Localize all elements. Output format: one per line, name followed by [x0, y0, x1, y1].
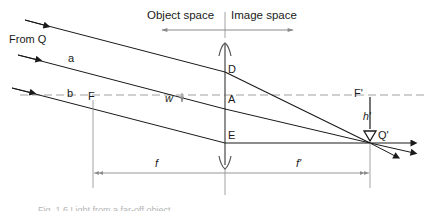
front-focal-length-label: f	[155, 158, 158, 169]
from-q-label: From Q	[9, 34, 46, 45]
image-height-label: h'	[363, 111, 371, 122]
front-focal-point-label: F	[88, 91, 95, 102]
figure-caption: Fig. 1.6 Light from a far-off object	[38, 206, 170, 211]
point-e-label: E	[228, 130, 235, 141]
ray-a-label: a	[68, 53, 74, 64]
angle-w-label: w	[165, 93, 173, 104]
rear-focal-point-label: F'	[354, 88, 363, 99]
point-d-label: D	[228, 64, 236, 75]
optics-diagram	[0, 0, 425, 211]
point-a-label: A	[228, 94, 235, 105]
ray-b-label: b	[67, 88, 73, 99]
image-space-label: Image space	[231, 10, 297, 22]
image-point-label: Q'	[378, 130, 389, 141]
rear-focal-length-label: f'	[296, 158, 301, 169]
object-space-label: Object space	[147, 10, 214, 22]
